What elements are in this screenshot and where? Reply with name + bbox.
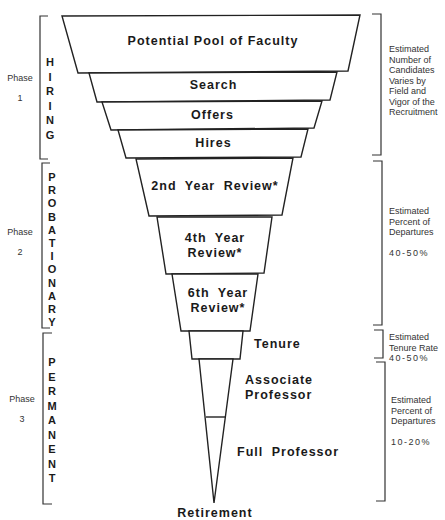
phase-name-probationary: PROBATIONARY (45, 171, 59, 329)
end-label-retirement: Retirement (165, 506, 265, 520)
stage-label-6th-year-line2: Review* (191, 301, 246, 315)
stage-label-search: Search (97, 78, 330, 93)
stage-label-6th-year-line1: 6th Year (188, 286, 248, 300)
phase-name-permanent: PERMANENT (45, 355, 59, 486)
stage-label-offers: Offers (111, 108, 314, 123)
phase-1-word: Phase (0, 73, 40, 83)
stage-label-full-professor: Full Professor (237, 445, 339, 460)
phase-3-word: Phase (2, 394, 42, 404)
stage-label-6th-year-review: 6th Year Review* (166, 286, 270, 316)
stage-label-potential-pool: Potential Pool of Faculty (78, 34, 348, 49)
bracket-recruitment (372, 14, 381, 155)
phase-3-number: 3 (2, 414, 42, 424)
note-departures-probationary: Estimated Percent of Departures 40-50% (389, 206, 434, 258)
phase-name-hiring: HIRING (43, 55, 57, 142)
phase-2-label: Phase 2 (0, 227, 40, 257)
bracket-departures-permanent (376, 362, 385, 501)
stage-label-4th-year-line2: Review* (188, 246, 243, 260)
note-recruitment: Estimated Number of Candidates Varies by… (389, 44, 438, 118)
note-departures-permanent: Estimated Percent of Departures 10-20% (391, 395, 436, 447)
associate-line1: Associate (245, 373, 313, 387)
stage-label-4th-year-review: 4th Year Review* (163, 231, 267, 261)
associate-line2: Professor (245, 388, 312, 402)
phase-2-word: Phase (0, 227, 40, 237)
departures-probationary-value: 40-50% (389, 248, 434, 259)
stage-shape-tenure (189, 331, 243, 359)
note-tenure-rate: Estimated Tenure Rate 40-50% (389, 332, 438, 364)
phase-2-number: 2 (0, 247, 40, 257)
phase-3-label: Phase 3 (2, 394, 42, 424)
phase-1-label: Phase 1 (0, 73, 40, 103)
tenure-rate-value: 40-50% (389, 353, 438, 364)
departures-permanent-value: 10-20% (391, 437, 436, 448)
stage-label-hires: Hires (126, 136, 301, 151)
stage-label-tenure: Tenure (254, 337, 301, 352)
stage-label-associate-professor: Associate Professor (245, 373, 313, 403)
bracket-tenure-rate (374, 330, 383, 358)
stage-label-4th-year-line1: 4th Year (185, 231, 245, 245)
phase-1-number: 1 (0, 93, 40, 103)
stage-shape-professor-cone (199, 359, 233, 503)
stage-label-2nd-year-review: 2nd Year Review* (145, 179, 285, 194)
bracket-departures-probationary (373, 161, 382, 325)
